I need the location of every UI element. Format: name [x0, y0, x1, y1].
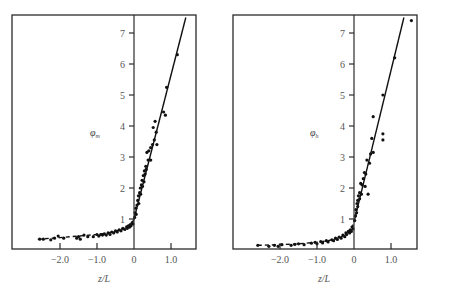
phi-m-y-axis-label: φm: [90, 127, 101, 139]
y-tick-label: 1: [120, 214, 125, 225]
data-point: [152, 126, 155, 129]
x-tick-label: −2.0: [271, 254, 289, 265]
data-point: [410, 19, 413, 22]
y-tick-label: 2: [340, 183, 345, 194]
data-point: [154, 120, 157, 123]
phi-m-stable-fit-line: [134, 18, 186, 220]
data-point: [372, 151, 375, 154]
x-tick-label: −1.0: [88, 254, 106, 265]
y-tick-label: 5: [340, 90, 345, 101]
y-tick-label: 3: [120, 152, 125, 163]
phi-h-y-axis-label: φh: [310, 127, 319, 139]
x-tick-label: 1.0: [385, 254, 398, 265]
phi-h-x-axis-label: z/L: [317, 273, 331, 284]
data-point: [364, 185, 367, 188]
y-tick-label: 3: [340, 152, 345, 163]
phi-m-x-axis: −2.0−1.001.0: [51, 243, 177, 265]
data-point: [42, 238, 45, 241]
y-tick-label: 5: [120, 90, 125, 101]
data-point: [147, 149, 150, 152]
data-point: [370, 137, 373, 140]
phi-h-y-axis: 1234567: [340, 28, 354, 225]
phi-h-unstable-fit-curve: [258, 222, 354, 245]
data-point: [367, 193, 370, 196]
phi-h-stable-fit-line: [354, 18, 404, 223]
data-point: [290, 244, 293, 247]
phi-m-y-axis: 1234567: [120, 28, 134, 225]
x-tick-label: −1.0: [308, 254, 326, 265]
y-tick-label: 4: [340, 121, 345, 132]
data-point: [381, 132, 384, 135]
x-tick-label: 1.0: [165, 254, 178, 265]
phi-m-data-points: [38, 53, 179, 241]
phi-h-data-points: [256, 19, 413, 248]
data-point: [164, 114, 167, 117]
y-tick-label: 7: [340, 28, 345, 39]
y-tick-label: 7: [120, 28, 125, 39]
data-point: [79, 238, 82, 241]
data-point: [92, 235, 95, 238]
y-tick-label: 6: [120, 59, 125, 70]
phi-m-plot-frame: [12, 15, 196, 249]
y-tick-label: 1: [340, 214, 345, 225]
data-point: [365, 159, 368, 162]
data-point: [381, 138, 384, 141]
y-tick-label: 2: [120, 183, 125, 194]
data-point: [297, 242, 300, 245]
phi-m-panel: 1234567 −2.0−1.001.0 φm z/L: [12, 15, 196, 284]
phi-h-panel: 1234567 −2.0−1.001.0 φh z/L: [233, 15, 417, 284]
data-point: [155, 143, 158, 146]
y-tick-label: 6: [340, 59, 345, 70]
phi-h-plot-frame: [233, 15, 417, 249]
phi-m-x-axis-label: z/L: [97, 273, 111, 284]
y-tick-label: 4: [120, 121, 125, 132]
x-tick-label: 0: [352, 254, 357, 265]
x-tick-label: −2.0: [51, 254, 69, 265]
x-tick-label: 0: [132, 254, 137, 265]
data-point: [372, 115, 375, 118]
figure: 1234567 −2.0−1.001.0 φm z/L 1234567 −2.0…: [0, 0, 450, 294]
